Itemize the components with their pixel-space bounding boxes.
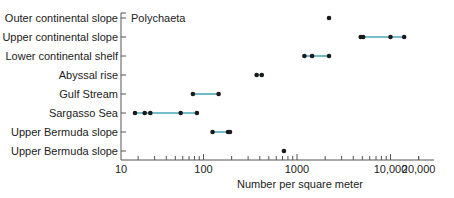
data-point — [361, 35, 366, 40]
data-point — [327, 54, 332, 59]
chart-title: Polychaeta — [131, 12, 186, 24]
data-point — [148, 111, 153, 116]
category-label: Upper Bermuda slope — [11, 126, 118, 138]
data-point — [388, 35, 393, 40]
x-tick-label: 100 — [194, 163, 212, 175]
category-label: Outer continental slope — [5, 12, 118, 24]
data-point — [195, 111, 200, 116]
x-axis-title: Number per square meter — [237, 178, 363, 190]
x-tick-label: 20,000 — [402, 163, 436, 175]
data-point — [191, 92, 196, 97]
data-point — [228, 130, 233, 135]
category-label: Gulf Stream — [59, 88, 118, 100]
data-point — [302, 54, 307, 59]
category-label: Upper continental slope — [2, 31, 118, 43]
data-point — [178, 111, 183, 116]
x-axis: 10100100010,00020,000 — [115, 154, 436, 175]
data-point — [133, 111, 138, 116]
category-label: Upper Bermuda slope — [11, 145, 118, 157]
plot-area — [133, 16, 407, 154]
data-point — [310, 54, 315, 59]
data-point — [402, 35, 407, 40]
category-label: Sargasso Sea — [49, 107, 119, 119]
data-point — [210, 130, 215, 135]
data-point — [282, 149, 287, 154]
data-point — [254, 73, 259, 78]
data-point — [142, 111, 147, 116]
x-tick-label: 10 — [115, 163, 127, 175]
data-point — [327, 16, 332, 21]
category-label: Abyssal rise — [59, 69, 118, 81]
data-point — [216, 92, 221, 97]
x-tick-label: 1000 — [285, 163, 309, 175]
y-axis: Outer continental slopeUpper continental… — [2, 12, 126, 160]
category-label: Lower continental shelf — [5, 50, 118, 62]
data-point — [259, 73, 264, 78]
chart: Outer continental slopeUpper continental… — [0, 0, 454, 198]
